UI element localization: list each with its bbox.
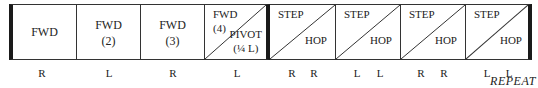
- step-box-3: FWD (3): [141, 4, 205, 60]
- split-bottom-label: HOP: [500, 33, 522, 47]
- step-label: FWD: [77, 17, 140, 33]
- split-top-label: STEP: [474, 7, 500, 21]
- step-box-4: FWD (4) PIVOT (¼ L): [205, 4, 270, 60]
- split-bottom-label: HOP: [305, 33, 327, 47]
- repeat-label: REPEAT: [490, 74, 536, 88]
- foot-label: R: [32, 67, 52, 79]
- step-note: (¼ L): [230, 41, 262, 55]
- step-count: (3): [141, 33, 204, 49]
- step-label: FWD: [213, 7, 237, 21]
- split-top-label: STEP: [409, 7, 435, 21]
- foot-label: L: [370, 67, 390, 79]
- step-box-5: STEP HOP: [270, 4, 336, 60]
- split-top-label: STEP: [344, 7, 370, 21]
- split-bottom-label: HOP: [435, 33, 457, 47]
- split-bottom-label: PIVOT (¼ L): [230, 27, 262, 55]
- foot-label: L: [347, 67, 367, 79]
- foot-label: R: [282, 67, 302, 79]
- step-box-6: STEP HOP: [336, 4, 401, 60]
- foot-label: R: [434, 67, 454, 79]
- step-count: (2): [77, 33, 140, 49]
- step-box-8: STEP HOP: [466, 4, 532, 60]
- step-box-2: FWD (2): [77, 4, 141, 60]
- step-label: PIVOT: [230, 27, 262, 41]
- split-top-label: STEP: [278, 7, 304, 21]
- split-bottom-label: HOP: [370, 33, 392, 47]
- foot-label: L: [227, 67, 247, 79]
- step-diagram: FWD FWD (2) FWD (3) FWD (4) PIVOT (¼ L) …: [9, 4, 532, 60]
- foot-label: R: [304, 67, 324, 79]
- step-box-7: STEP HOP: [401, 4, 466, 60]
- foot-label: R: [411, 67, 431, 79]
- foot-label: L: [99, 67, 119, 79]
- step-box-1: FWD: [9, 4, 77, 60]
- step-label: FWD: [13, 24, 76, 40]
- step-label: FWD: [141, 17, 204, 33]
- foot-label: R: [163, 67, 183, 79]
